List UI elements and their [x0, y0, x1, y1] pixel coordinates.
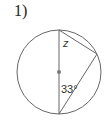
circle-diagram: z 33°	[0, 0, 112, 127]
angle-z-label: z	[62, 37, 69, 49]
center-point	[57, 70, 61, 74]
angle-33-label: 33°	[61, 83, 78, 95]
